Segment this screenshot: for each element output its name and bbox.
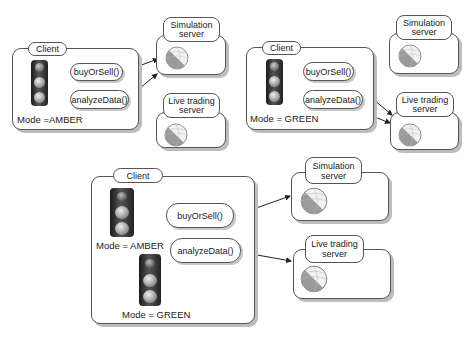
method-analyze-data: analyzeData() (70, 90, 129, 109)
globe-icon (300, 265, 328, 293)
globe-icon (165, 46, 189, 70)
method-analyze-data: analyzeData() (303, 90, 363, 109)
globe-icon (300, 187, 328, 215)
simulation-server-label: Simulation server (305, 157, 362, 184)
method-buy-or-sell: buyOrSell() (303, 62, 354, 81)
mode-label: Mode =AMBER (17, 114, 83, 125)
globe-icon (398, 123, 422, 147)
method-buy-or-sell: buyOrSell() (70, 63, 123, 81)
method-analyze-data: analyzeData() (170, 238, 241, 263)
client-label: Client (262, 41, 301, 55)
mode-label: Mode = GREEN (250, 113, 318, 124)
client-label: Client (113, 168, 163, 183)
client-label: Client (28, 42, 67, 56)
globe-icon (164, 123, 188, 147)
live-trading-server-label: Live trading server (163, 93, 220, 118)
mode-label-green: Mode = GREEN (122, 309, 190, 320)
simulation-server-label: Simulation server (396, 15, 452, 40)
traffic-light-icon (31, 60, 48, 106)
traffic-light-icon (266, 59, 283, 105)
simulation-server-label: Simulation server (163, 17, 220, 42)
live-trading-server-label: Live trading server (305, 235, 364, 263)
method-buy-or-sell: buyOrSell() (166, 203, 234, 228)
traffic-light-green-icon (139, 254, 161, 306)
mode-label-amber: Mode = AMBER (96, 240, 164, 251)
live-trading-server-label: Live trading server (396, 92, 454, 117)
globe-icon (398, 44, 422, 68)
traffic-light-amber-icon (110, 188, 134, 237)
